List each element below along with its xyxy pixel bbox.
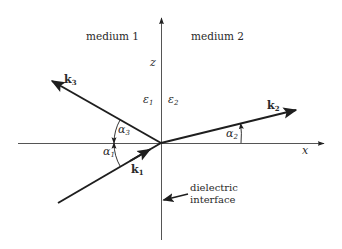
diagram-canvas: medium 1 medium 2 ε1 ε2 z x k3 k2 k1 α3 … — [0, 0, 342, 249]
k3-label: k3 — [64, 73, 77, 87]
k1-label: k1 — [131, 163, 144, 177]
medium-1-label: medium 1 — [86, 30, 139, 42]
alpha1-label: α1 — [103, 145, 115, 159]
z-axis-label: z — [149, 56, 156, 69]
k3-vector-arrow — [52, 81, 161, 143]
k2-label: k2 — [267, 99, 280, 113]
k1-vector-arrowhead — [130, 149, 150, 161]
interface-pointer-arrow — [164, 194, 189, 200]
epsilon-2-label: ε2 — [168, 93, 179, 107]
epsilon-1-label: ε1 — [143, 93, 153, 107]
x-axis-label: x — [302, 144, 309, 157]
alpha2-arc — [241, 124, 242, 143]
interface-annotation-line2: interface — [190, 194, 236, 205]
alpha1-arc — [114, 143, 120, 167]
medium-2-label: medium 2 — [191, 30, 244, 42]
interface-annotation-line1: dielectric — [190, 182, 238, 193]
alpha2-label: α2 — [226, 127, 238, 141]
